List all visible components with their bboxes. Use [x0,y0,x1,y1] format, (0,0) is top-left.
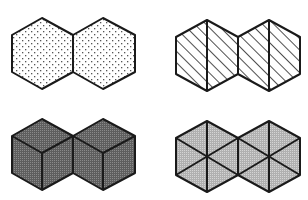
panel-top-left-dotted-hexagons [12,18,135,89]
panel-bottom-right-triangulated-hexagons [176,121,300,192]
hexagon-dotted-left [12,18,73,89]
hexagon-pattern-figure [0,0,308,200]
panel-bottom-left-cubes [12,119,135,190]
hexagon-dotted-right [73,18,135,89]
panel-top-right-hatched-hexagons [176,20,300,91]
